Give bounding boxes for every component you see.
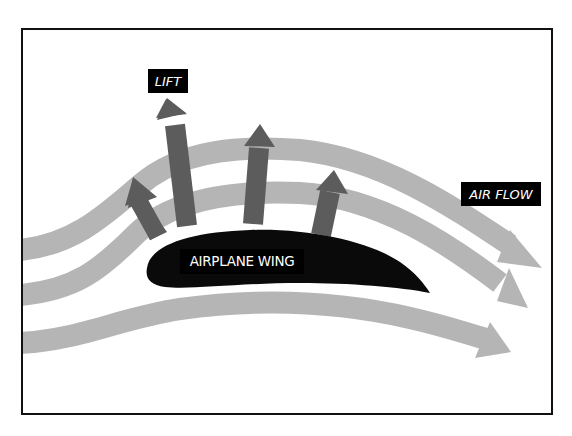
airflow-stream-bottom [20, 303, 511, 358]
airplane-wing-label: AIRPLANE WING [180, 249, 304, 274]
arrowhead-icon [244, 124, 275, 147]
air-flow-label: AIR FLOW [461, 182, 541, 206]
lift-label: LIFT [148, 69, 188, 93]
arrowhead-icon [316, 170, 348, 194]
lift-diagram [0, 0, 572, 436]
